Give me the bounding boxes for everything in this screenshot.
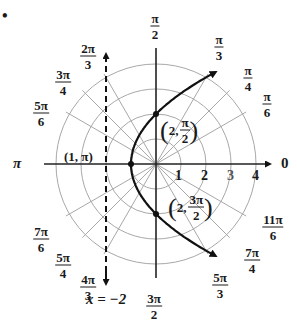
point-label-1-pi: (1, π): [64, 150, 93, 163]
angle-label-3pi-2: 3π 2: [146, 292, 162, 321]
point-1-pi: [128, 161, 134, 167]
ring-label-2: 2: [201, 169, 208, 183]
angle-label-0: 0: [281, 156, 289, 171]
ray-120: [104, 74, 156, 164]
ray-210: [66, 164, 156, 216]
point-2-pi-2: [153, 111, 159, 117]
angle-label-pi: π: [13, 156, 21, 171]
point-2-3pi-2: [153, 211, 159, 217]
directrix-label: x = −2: [86, 292, 126, 307]
angle-label-pi-2: π 2: [150, 12, 159, 41]
angle-label-pi-4: π 4: [243, 64, 252, 93]
angle-label-11pi-6: 11π 6: [262, 213, 283, 242]
angle-label-5pi-4: 5π 4: [55, 251, 71, 280]
point-label-2-3pi-2: ( 2, 3π 2 ): [168, 193, 213, 222]
angle-label-5pi-3: 5π 3: [212, 271, 228, 300]
angle-label-7pi-6: 7π 6: [33, 225, 49, 254]
point-label-2-pi-2: ( 2, π 2 ): [160, 116, 198, 145]
ring-label-4: 4: [252, 169, 259, 183]
ring-label-3: 3: [227, 169, 234, 183]
angle-label-7pi-4: 7π 4: [244, 246, 260, 275]
angle-label-5pi-6: 5π 6: [33, 99, 49, 128]
angle-label-3pi-4: 3π 4: [55, 68, 71, 97]
angle-label-pi-6: π 6: [262, 90, 271, 119]
ray-240: [104, 164, 156, 254]
polar-grid-svg: [0, 0, 297, 329]
angle-label-2pi-3: 2π 3: [80, 42, 96, 71]
angle-label-pi-3: π 3: [214, 33, 223, 62]
ring-label-1: 1: [175, 169, 182, 183]
